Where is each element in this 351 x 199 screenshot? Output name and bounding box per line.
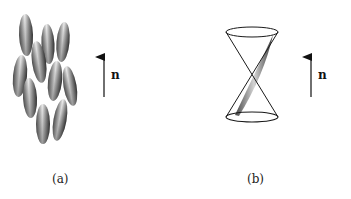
molecule-ellipsoid bbox=[50, 98, 70, 142]
figure-canvas bbox=[0, 0, 351, 199]
molecule-ellipsoid bbox=[36, 104, 50, 144]
molecule-ellipsoid bbox=[18, 14, 33, 56]
panel-b-double-cone bbox=[226, 27, 278, 122]
figure: n n (a) (b) bbox=[0, 0, 351, 199]
molecule-ellipsoid bbox=[55, 22, 71, 63]
panel-a-molecules bbox=[11, 14, 80, 144]
caption-b: (b) bbox=[247, 172, 264, 186]
director-label-b: n bbox=[318, 68, 327, 82]
molecule-ellipsoid bbox=[46, 60, 64, 101]
caption-a: (a) bbox=[52, 172, 69, 186]
director-label-a: n bbox=[111, 68, 120, 82]
